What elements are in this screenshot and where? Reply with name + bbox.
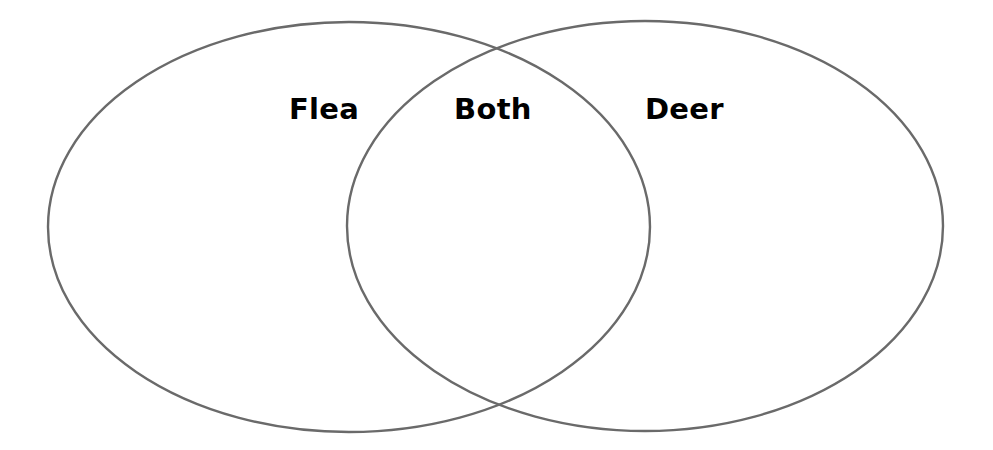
venn-diagram: Flea Both Deer <box>0 0 993 450</box>
flea-set-ellipse <box>48 22 650 432</box>
flea-label: Flea <box>289 92 359 126</box>
deer-label: Deer <box>645 92 724 126</box>
deer-set-ellipse <box>347 21 943 431</box>
both-label: Both <box>454 92 532 126</box>
